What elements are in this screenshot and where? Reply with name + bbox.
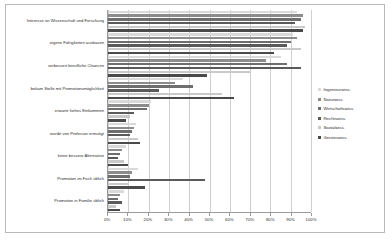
legend-swatch-icon xyxy=(318,117,321,120)
bar-group xyxy=(108,145,311,167)
x-tick-label: 70% xyxy=(245,217,254,222)
bar xyxy=(108,205,116,207)
bar-group xyxy=(108,32,311,54)
category-label: keine bessere Alternative xyxy=(8,145,107,168)
x-tick-label: 80% xyxy=(266,217,275,222)
legend-label: Naturwiss. xyxy=(324,97,344,102)
bar xyxy=(108,100,151,102)
legend-swatch-icon xyxy=(318,88,321,91)
category-label: Promotion im Fach üblich xyxy=(8,168,107,191)
bar xyxy=(108,108,147,110)
category-label: bekam Stelle mit Promotionsmöglichkeit xyxy=(8,78,107,101)
x-tick xyxy=(229,213,230,216)
x-tick-label: 30% xyxy=(164,217,173,222)
bar xyxy=(108,41,291,43)
x-tick-label: 10% xyxy=(123,217,132,222)
bar xyxy=(108,168,138,170)
bar xyxy=(108,138,138,140)
bar xyxy=(108,56,281,58)
legend-item[interactable]: Naturwiss. xyxy=(318,97,384,102)
bar-group xyxy=(108,122,311,144)
category-label: wurde von Professor ermutigt xyxy=(8,123,107,146)
category-label: erwarte hohes Einkommen xyxy=(8,100,107,123)
bar xyxy=(108,85,193,87)
bar xyxy=(108,93,222,95)
bar xyxy=(108,52,274,54)
bar xyxy=(108,164,128,166)
bar xyxy=(108,26,305,28)
gridline xyxy=(311,10,312,212)
bar xyxy=(108,201,122,203)
legend-item[interactable]: Ingenieurwiss. xyxy=(318,87,384,92)
bar xyxy=(108,82,175,84)
x-tick xyxy=(189,213,190,216)
legend-swatch-icon xyxy=(318,107,321,110)
legend-item[interactable]: Sozialwiss. xyxy=(318,125,384,130)
plot-area xyxy=(107,10,311,213)
bar xyxy=(108,179,205,181)
legend-label: Geisteswiss. xyxy=(324,135,348,140)
x-tick xyxy=(168,213,169,216)
bar xyxy=(108,153,120,155)
category-label: Promotion in Familie üblich xyxy=(8,191,107,214)
x-tick-label: 50% xyxy=(205,217,214,222)
bar-group xyxy=(108,100,311,122)
bar-group xyxy=(108,167,311,189)
bar xyxy=(108,63,287,65)
bar xyxy=(108,18,301,20)
bar xyxy=(108,11,297,13)
bar xyxy=(108,145,126,147)
bar xyxy=(108,71,250,73)
legend-label: Wirtschaftswiss. xyxy=(324,106,355,111)
bar xyxy=(108,142,140,144)
x-tick-label: 100% xyxy=(306,217,317,222)
bar xyxy=(108,127,134,129)
bar xyxy=(108,44,287,46)
legend-label: Sozialwiss. xyxy=(324,125,345,130)
bar-group xyxy=(108,10,311,32)
bar xyxy=(108,89,159,91)
bar xyxy=(108,149,122,151)
bar xyxy=(108,134,130,136)
legend-item[interactable]: Geisteswiss. xyxy=(318,135,384,140)
bar xyxy=(108,123,136,125)
x-tick xyxy=(250,213,251,216)
legend-swatch-icon xyxy=(318,98,321,101)
bar xyxy=(108,112,134,114)
x-tick-label: 60% xyxy=(225,217,234,222)
category-label: verbessert berufliche Chancen xyxy=(8,55,107,78)
chart-body: Interesse an Wissenschaft und Forschunge… xyxy=(6,5,384,232)
chart-container: Interesse an Wissenschaft und Forschunge… xyxy=(5,4,385,233)
x-tick-label: 90% xyxy=(286,217,295,222)
bar xyxy=(108,175,130,177)
bar xyxy=(108,74,207,76)
legend-swatch-icon xyxy=(318,136,321,139)
bar-group xyxy=(108,77,311,99)
x-axis: 0%10%20%30%40%50%60%70%80%90%100% xyxy=(107,213,311,229)
legend-item[interactable]: Wirtschaftswiss. xyxy=(318,106,384,111)
bar xyxy=(108,209,120,211)
category-axis: Interesse an Wissenschaft und Forschunge… xyxy=(8,10,107,213)
x-tick xyxy=(311,213,312,216)
category-label: Interesse an Wissenschaft und Forschung xyxy=(8,10,107,33)
x-tick xyxy=(127,213,128,216)
bar xyxy=(108,104,149,106)
chart-legend: Ingenieurwiss.Naturwiss.Wirtschaftswiss.… xyxy=(318,87,384,140)
x-tick-label: 20% xyxy=(143,217,152,222)
bar xyxy=(108,78,183,80)
category-label: eigene Fähigkeiten ausbauen xyxy=(8,33,107,56)
x-tick-label: 40% xyxy=(184,217,193,222)
legend-swatch-icon xyxy=(318,126,321,129)
bar xyxy=(108,157,118,159)
bar-groups xyxy=(108,10,311,212)
bar xyxy=(108,160,124,162)
bar xyxy=(108,37,297,39)
bar xyxy=(108,171,132,173)
bar xyxy=(108,115,130,117)
bar xyxy=(108,48,301,50)
bar xyxy=(108,29,303,31)
legend-item[interactable]: Rechtswiss. xyxy=(318,116,384,121)
x-tick xyxy=(148,213,149,216)
bar xyxy=(108,186,145,188)
bar xyxy=(108,183,128,185)
